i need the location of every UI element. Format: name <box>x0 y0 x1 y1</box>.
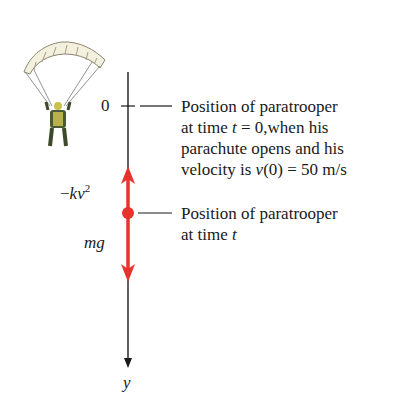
drag-force-label: −kv2 <box>60 178 90 204</box>
axis-arrow-icon <box>124 358 132 368</box>
paratrooper-position-dot <box>122 207 134 219</box>
zero-label: 0 <box>101 95 110 116</box>
annotation-current: Position of paratrooper at time t <box>181 203 338 245</box>
gravity-force-label: mg <box>84 232 105 253</box>
annotation-initial: Position of paratrooper at time t = 0,wh… <box>181 96 347 180</box>
paratrooper-icon <box>24 42 105 146</box>
y-axis-label: y <box>123 372 131 393</box>
